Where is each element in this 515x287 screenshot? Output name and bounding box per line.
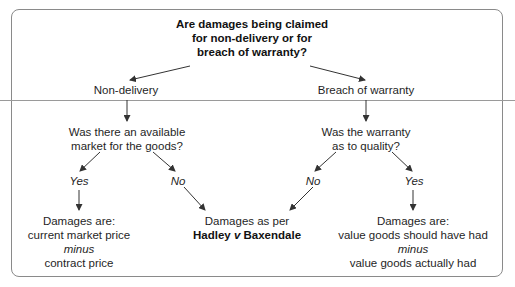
root-question-line-3: breach of warranty?	[176, 45, 328, 59]
non-delivery-node: Non-delivery	[94, 83, 159, 97]
market-price-result: Damages are: current market price minus …	[28, 214, 130, 270]
available-market-question-line-2: market for the goods?	[69, 139, 186, 153]
warranty-value-result-line-2: value goods should have had	[338, 228, 488, 242]
root-question-line-2: for non-delivery or for	[176, 31, 328, 45]
warranty-value-result-line-1: Damages are:	[338, 214, 488, 228]
left-no-label: No	[171, 174, 186, 188]
market-price-result-line-2: current market price	[28, 228, 130, 242]
market-price-result-line-1: Damages are:	[28, 214, 130, 228]
market-price-result-line-4: contract price	[28, 256, 130, 270]
left-yes-label: Yes	[69, 174, 88, 188]
warranty-quality-question-line-1: Was the warranty	[321, 125, 410, 139]
right-no-label: No	[306, 174, 321, 188]
case-name-part-2: Baxendale	[244, 229, 302, 241]
available-market-question: Was there an available market for the go…	[69, 125, 186, 153]
hadley-baxendale-result: Damages as per Hadley v Baxendale	[193, 214, 301, 242]
warranty-quality-question: Was the warranty as to quality?	[321, 125, 410, 153]
case-name-part-1: Hadley	[193, 229, 231, 241]
warranty-value-result-minus: minus	[338, 242, 488, 256]
market-price-result-minus: minus	[28, 242, 130, 256]
warranty-value-result: Damages are: value goods should have had…	[338, 214, 488, 270]
right-yes-label: Yes	[404, 174, 423, 188]
available-market-question-line-1: Was there an available	[69, 125, 186, 139]
hadley-baxendale-result-line-1: Damages as per	[193, 214, 301, 228]
hadley-baxendale-case-name: Hadley v Baxendale	[193, 228, 301, 242]
warranty-value-result-line-4: value goods actually had	[338, 256, 488, 270]
breach-of-warranty-node: Breach of warranty	[318, 83, 415, 97]
case-name-v: v	[234, 229, 240, 241]
root-question-line-1: Are damages being claimed	[176, 17, 328, 31]
warranty-quality-question-line-2: as to quality?	[321, 139, 410, 153]
root-question: Are damages being claimed for non-delive…	[176, 17, 328, 59]
